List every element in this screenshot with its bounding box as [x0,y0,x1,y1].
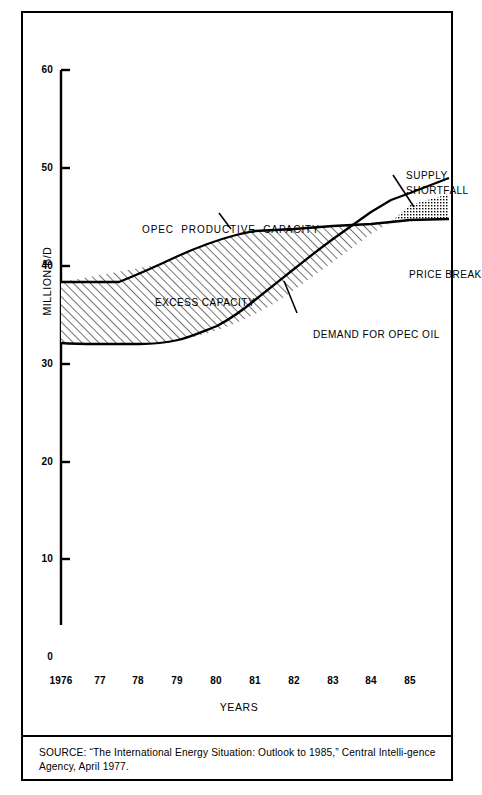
xtick-label-83: 83 [313,675,353,686]
xtick-label-81: 81 [235,675,275,686]
xtick-label-80: 80 [196,675,236,686]
ytick-label-30: 30 [23,358,53,369]
xtick-label-79: 79 [157,675,197,686]
xtick-label-1976: 1976 [41,675,81,686]
figure-frame: 60 50 40 30 20 10 0 1976 77 78 79 80 81 … [21,11,453,781]
leader-line-supply-shortfall [393,175,414,207]
ytick-label-0: 0 [23,651,53,662]
xtick-label-78: 78 [118,675,158,686]
plot-area: 60 50 40 30 20 10 0 1976 77 78 79 80 81 … [23,13,451,625]
leader-line-capacity [219,213,231,229]
ytick-label-60: 60 [23,64,53,75]
xtick-label-84: 84 [351,675,391,686]
xtick-label-77: 77 [80,675,120,686]
xtick-label-82: 82 [274,675,314,686]
y-axis [61,70,70,625]
source-note: SOURCE: “The International Energy Situat… [39,746,443,774]
region-supply-shortfall-fill [391,194,449,222]
x-axis-title: YEARS [23,701,455,713]
ytick-label-50: 50 [23,162,53,173]
source-divider [23,735,451,737]
ytick-label-20: 20 [23,456,53,467]
y-axis-title: MILLION B/D [41,231,53,331]
xtick-label-85: 85 [390,675,430,686]
ytick-label-10: 10 [23,553,53,564]
chart-svg [23,13,455,625]
